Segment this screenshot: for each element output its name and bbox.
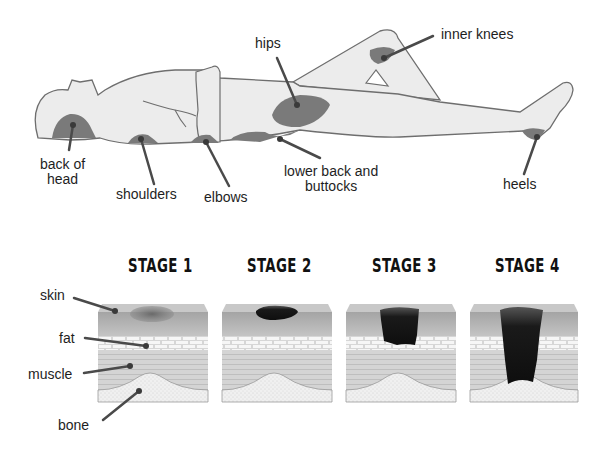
label-elbows: elbows	[204, 190, 248, 205]
stage-3-block	[346, 304, 456, 402]
label-bone: bone	[58, 418, 89, 433]
label-muscle: muscle	[28, 367, 72, 382]
body-silhouette	[35, 30, 573, 144]
stage-1-block	[98, 304, 208, 402]
label-heels: heels	[503, 177, 536, 192]
pressure-ulcer-diagram	[0, 0, 607, 455]
stage-1-title: STAGE 1	[128, 254, 193, 276]
stage-2-block	[222, 304, 332, 402]
label-skin: skin	[40, 288, 65, 303]
stage-3-title: STAGE 3	[372, 254, 437, 276]
label-lower-back-and-buttocks: lower back and buttocks	[284, 164, 378, 194]
label-inner-knees: inner knees	[441, 27, 513, 42]
label-hips: hips	[255, 36, 281, 51]
stage-2-title: STAGE 2	[247, 254, 312, 276]
heels-area	[522, 128, 545, 140]
label-back-of-head: back of head	[40, 157, 85, 187]
stage-4-title: STAGE 4	[495, 254, 560, 276]
label-fat: fat	[59, 331, 75, 346]
label-shoulders: shoulders	[116, 187, 177, 202]
stage-4-block	[470, 304, 578, 402]
